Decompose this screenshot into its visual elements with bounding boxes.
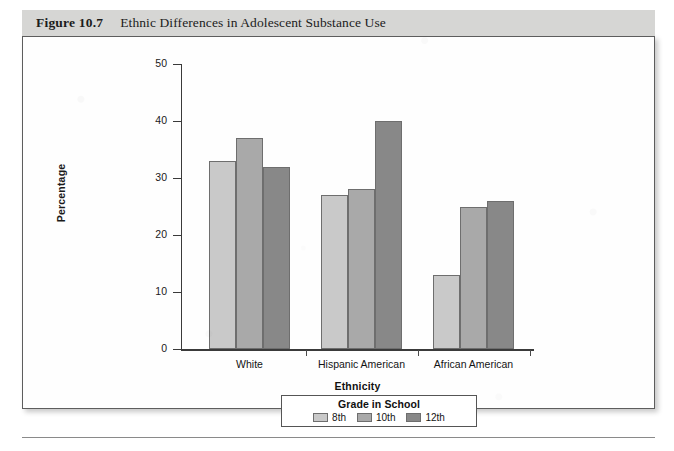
figure-frame: Percentage 01020304050 WhiteHispanic Ame…	[22, 36, 655, 409]
bar-hispanic-american-10th	[348, 189, 375, 349]
bar-chart: Percentage 01020304050 WhiteHispanic Ame…	[23, 37, 656, 410]
x-tick-2	[418, 350, 419, 356]
y-tick-label-0: 0	[127, 342, 167, 354]
bar-african-american-8th	[433, 275, 460, 349]
y-tick-label-10: 10	[127, 285, 167, 297]
y-tick-10	[173, 292, 182, 293]
legend-swatch-10th	[357, 413, 372, 422]
y-axis-title: Percentage	[55, 133, 67, 253]
y-tick-label-20: 20	[127, 228, 167, 240]
legend-item-10th: 10th	[357, 412, 395, 423]
x-tick-end	[530, 350, 531, 356]
legend-items: 8th10th12th	[282, 412, 476, 423]
legend-item-12th: 12th	[406, 412, 444, 423]
legend-swatch-8th	[313, 413, 328, 422]
figure-caption-band: Figure 10.7 Ethnic Differences in Adoles…	[22, 10, 655, 36]
figure-title: Ethnic Differences in Adolescent Substan…	[120, 15, 386, 31]
y-tick-label-50: 50	[127, 57, 167, 69]
x-axis-line	[181, 349, 534, 351]
bar-hispanic-american-8th	[321, 195, 348, 349]
y-tick-50	[173, 64, 182, 65]
y-tick-label-40: 40	[127, 114, 167, 126]
page-bottom-rule	[22, 437, 655, 438]
figure-number: Figure 10.7	[36, 15, 103, 31]
legend-title: Grade in School	[282, 398, 476, 410]
bar-african-american-12th	[487, 201, 514, 349]
bar-hispanic-american-12th	[375, 121, 402, 349]
legend-swatch-12th	[406, 413, 421, 422]
bar-african-american-10th	[460, 207, 487, 350]
x-tick-1	[306, 350, 307, 356]
x-axis-title: Ethnicity	[181, 380, 534, 392]
chart-legend: Grade in School 8th10th12th	[281, 395, 477, 427]
y-axis-line	[181, 64, 182, 350]
y-tick-label-30: 30	[127, 171, 167, 183]
y-tick-40	[173, 121, 182, 122]
y-tick-30	[173, 178, 182, 179]
legend-label-8th: 8th	[332, 412, 346, 423]
y-tick-0	[173, 349, 182, 350]
bar-white-8th	[209, 161, 236, 349]
legend-item-8th: 8th	[313, 412, 346, 423]
bar-white-12th	[263, 167, 290, 349]
x-tick-label-african-american: African American	[404, 358, 544, 370]
legend-label-10th: 10th	[376, 412, 395, 423]
y-tick-20	[173, 235, 182, 236]
legend-label-12th: 12th	[425, 412, 444, 423]
bar-white-10th	[236, 138, 263, 349]
